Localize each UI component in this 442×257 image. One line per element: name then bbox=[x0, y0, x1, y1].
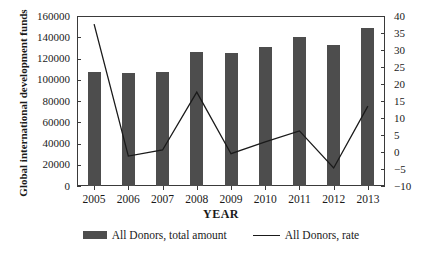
bar bbox=[293, 37, 306, 186]
y-axis-right-tick-mark bbox=[381, 186, 385, 187]
y-axis-right-tick-label: 10 bbox=[394, 113, 434, 124]
x-axis-tick-label: 2013 bbox=[344, 194, 392, 206]
x-axis-tick-mark bbox=[231, 186, 232, 190]
chart-figure: Global international development funds A… bbox=[0, 0, 442, 257]
y-axis-left-tick-mark bbox=[77, 186, 81, 187]
y-axis-right-tick-label: −5 bbox=[394, 164, 434, 175]
legend-label-total-amount: All Donors, total amount bbox=[112, 229, 227, 241]
y-axis-right-tick-label: 5 bbox=[394, 130, 434, 141]
y-axis-right-tick-mark bbox=[381, 152, 385, 153]
y-axis-left-tick-label: 0 bbox=[0, 181, 70, 192]
legend-label-rate: All Donors, rate bbox=[285, 229, 359, 241]
y-axis-right-tick-mark bbox=[381, 101, 385, 102]
y-axis-left-tick-label: 20000 bbox=[0, 159, 70, 170]
y-axis-left-tick-label: 40000 bbox=[0, 138, 70, 149]
y-axis-right-tick-mark bbox=[381, 118, 385, 119]
bar bbox=[122, 73, 135, 186]
y-axis-left-tick-label: 140000 bbox=[0, 32, 70, 43]
x-axis-tick-mark bbox=[163, 186, 164, 190]
bar bbox=[361, 28, 374, 186]
y-axis-right-tick-label: 0 bbox=[394, 147, 434, 158]
y-axis-right-tick-label: 35 bbox=[394, 28, 434, 39]
y-axis-right-tick-mark bbox=[381, 33, 385, 34]
x-axis-tick-mark bbox=[94, 186, 95, 190]
x-axis-tick-mark bbox=[299, 186, 300, 190]
bar bbox=[225, 53, 238, 186]
y-axis-right-tick-label: 25 bbox=[394, 62, 434, 73]
y-axis-right-tick-mark bbox=[381, 16, 385, 17]
x-axis-tick-mark bbox=[368, 186, 369, 190]
bar bbox=[190, 52, 203, 186]
x-axis-tick-mark bbox=[128, 186, 129, 190]
y-axis-right-tick-mark bbox=[381, 84, 385, 85]
y-axis-right-tick-label: 20 bbox=[394, 79, 434, 90]
y-axis-right-tick-label: −10 bbox=[394, 181, 434, 192]
y-axis-left-tick-mark bbox=[77, 165, 81, 166]
y-axis-right-tick-label: 30 bbox=[394, 45, 434, 56]
x-axis-tick-mark bbox=[197, 186, 198, 190]
y-axis-left-tick-mark bbox=[77, 16, 81, 17]
bar bbox=[88, 72, 101, 186]
y-axis-right-tick-mark bbox=[381, 67, 385, 68]
y-axis-left-tick-label: 120000 bbox=[0, 53, 70, 64]
y-axis-right-tick-label: 15 bbox=[394, 96, 434, 107]
x-axis-tick-mark bbox=[265, 186, 266, 190]
bar bbox=[156, 72, 169, 186]
y-axis-left-tick-label: 160000 bbox=[0, 11, 70, 22]
x-axis-title: YEAR bbox=[0, 207, 442, 222]
x-axis-tick-mark bbox=[334, 186, 335, 190]
bar bbox=[259, 47, 272, 186]
y-axis-right-tick-label: 40 bbox=[394, 11, 434, 22]
y-axis-left-tick-mark bbox=[77, 80, 81, 81]
legend-item-rate: All Donors, rate bbox=[253, 229, 359, 241]
y-axis-left-tick-label: 100000 bbox=[0, 74, 70, 85]
y-axis-right-tick-mark bbox=[381, 135, 385, 136]
y-axis-left-tick-mark bbox=[77, 144, 81, 145]
y-axis-left-tick-mark bbox=[77, 37, 81, 38]
y-axis-right-tick-mark bbox=[381, 169, 385, 170]
y-axis-left-tick-mark bbox=[77, 59, 81, 60]
chart-legend: All Donors, total amount All Donors, rat… bbox=[0, 229, 442, 241]
y-axis-right-tick-mark bbox=[381, 50, 385, 51]
y-axis-left-tick-label: 60000 bbox=[0, 117, 70, 128]
y-axis-left-tick-mark bbox=[77, 122, 81, 123]
bar-swatch-icon bbox=[83, 231, 107, 239]
y-axis-left-tick-label: 80000 bbox=[0, 96, 70, 107]
line-swatch-icon bbox=[253, 235, 280, 236]
bar bbox=[327, 45, 340, 186]
legend-item-total-amount: All Donors, total amount bbox=[83, 229, 227, 241]
y-axis-left-tick-mark bbox=[77, 101, 81, 102]
